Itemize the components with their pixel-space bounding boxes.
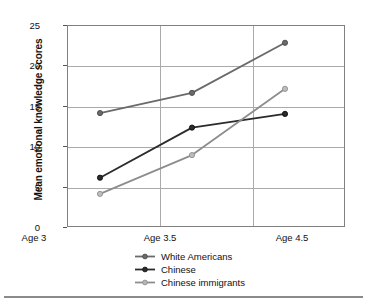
data-series-layer: [67, 25, 345, 227]
legend-label-chinese: Chinese: [161, 264, 196, 275]
series-line-white-americans: [100, 43, 285, 113]
data-point[interactable]: [97, 175, 102, 180]
footer-divider: [4, 296, 363, 298]
x-axis-tick-label-age-4-5: Age 4.5: [252, 232, 332, 243]
y-axis-tick-label-20: 20: [16, 61, 40, 71]
data-point[interactable]: [97, 110, 102, 115]
y-axis-tick-mark-0: [63, 227, 67, 228]
data-point[interactable]: [189, 125, 194, 130]
legend-marker-icon: [134, 264, 156, 275]
x-axis-tick-label-age-3-5: Age 3.5: [120, 232, 200, 243]
y-axis-tick-label-25: 25: [16, 21, 40, 31]
chart-legend: White Americans Chinese Chinese immigran…: [134, 250, 334, 289]
legend-label-white-americans: White Americans: [161, 251, 232, 262]
data-point[interactable]: [97, 191, 102, 196]
legend-item-white-americans[interactable]: White Americans: [134, 250, 334, 263]
legend-marker-icon: [134, 251, 156, 262]
y-axis-tick-label-5: 5: [16, 183, 40, 193]
x-axis-tick-label-age-3: Age 3: [0, 232, 74, 243]
series-line-chinese: [100, 114, 285, 178]
legend-label-chinese-immigrants: Chinese immigrants: [161, 277, 245, 288]
legend-item-chinese[interactable]: Chinese: [134, 263, 334, 276]
y-axis-tick-label-15: 15: [16, 102, 40, 112]
legend-item-chinese-immigrants[interactable]: Chinese immigrants: [134, 276, 334, 289]
y-axis-tick-label-10: 10: [16, 142, 40, 152]
data-point[interactable]: [282, 111, 287, 116]
data-point[interactable]: [189, 90, 194, 95]
data-point[interactable]: [282, 40, 287, 45]
data-point[interactable]: [282, 86, 287, 91]
series-line-chinese-immigrants: [100, 89, 285, 194]
data-point[interactable]: [189, 152, 194, 157]
legend-marker-icon: [134, 277, 156, 288]
line-chart-figure: Mean emotional knowledge scores 25 20 15…: [0, 0, 367, 305]
